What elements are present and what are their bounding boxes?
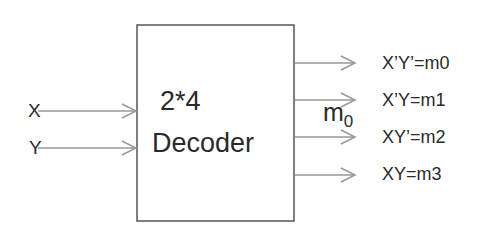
output-arrow-m2: [295, 130, 355, 144]
input-arrow-y: [38, 141, 136, 155]
annotation-subscript: 0: [344, 112, 353, 131]
output-label-m1: X’Y=m1: [382, 91, 446, 109]
output-arrow-m0: [295, 56, 355, 70]
output-label-m3: XY=m3: [382, 165, 442, 183]
output-annotation: m0: [323, 100, 353, 130]
annotation-base: m: [323, 98, 344, 126]
output-arrow-m3: [295, 168, 355, 182]
block-title-name: Decoder: [152, 130, 254, 157]
input-label-x: X: [28, 101, 41, 120]
decoder-diagram: [0, 0, 489, 236]
output-label-m2: XY’=m2: [382, 128, 446, 146]
block-title-size: 2*4: [160, 88, 201, 115]
output-label-m0: X’Y’=m0: [382, 54, 450, 72]
decoder-box: [137, 25, 294, 221]
input-arrow-x: [38, 104, 136, 118]
input-label-y: Y: [29, 138, 42, 157]
